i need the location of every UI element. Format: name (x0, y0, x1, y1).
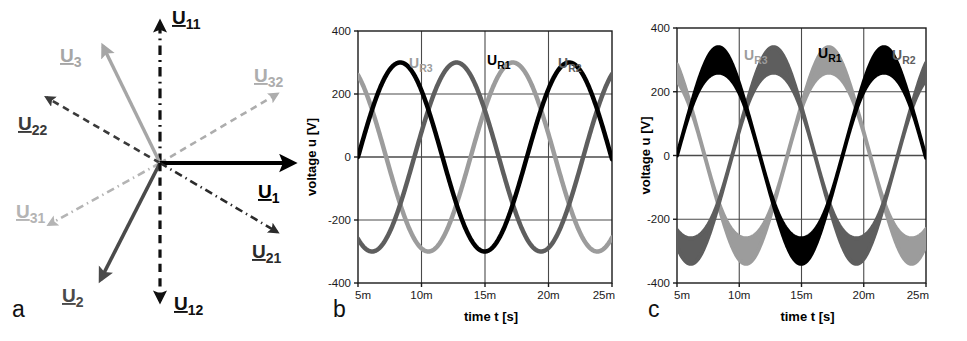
x-axis-title: time t [s] (780, 309, 834, 324)
x-tick-label: 5m (674, 289, 690, 301)
y-tick-label: -400 (328, 277, 351, 289)
phasor-label-u2: U2 (62, 285, 84, 310)
svg-text:U12: U12 (174, 293, 204, 318)
x-tick-label: 10m (410, 289, 432, 301)
figure-root: U11U3U32U22U1U31U21U2U12 a -400-20002004… (0, 0, 967, 341)
svg-text:U1: U1 (258, 181, 280, 206)
x-tick-label: 5m (355, 289, 371, 301)
phasor-vector-u32 (160, 94, 277, 163)
panel-letter-c: c (648, 296, 660, 323)
curve-annotation-ur2: UR2 (558, 55, 582, 74)
y-tick-label: 0 (345, 151, 351, 163)
phasor-label-u1: U1 (258, 181, 280, 206)
x-tick-label: 15m (474, 289, 496, 301)
svg-text:U2: U2 (62, 285, 84, 310)
y-tick-label: 200 (651, 86, 670, 98)
svg-text:U21: U21 (252, 241, 282, 266)
chart-c-svg: -400-20002004005m10m15m20m25mtime t [s]v… (640, 0, 967, 341)
chart-b-svg: -400-20002004005m10m15m20m25mtime t [s]v… (330, 0, 640, 341)
x-tick-label: 20m (853, 289, 875, 301)
y-tick-label: 0 (664, 150, 670, 162)
phasor-label-u31: U31 (16, 201, 46, 226)
phasor-label-u3: U3 (60, 45, 82, 70)
curve-annotation-ur3: UR3 (744, 47, 768, 66)
x-tick-label: 25m (907, 289, 929, 301)
phasor-vector-u3 (103, 46, 160, 163)
svg-text:U31: U31 (16, 201, 46, 226)
phasor-vector-u2 (101, 163, 160, 280)
phasor-diagram-svg: U11U3U32U22U1U31U21U2U12 (0, 0, 330, 341)
x-tick-label: 10m (728, 289, 750, 301)
svg-text:U22: U22 (18, 113, 48, 138)
y-tick-label: 400 (332, 25, 351, 37)
phasor-label-u11: U11 (172, 7, 201, 32)
y-tick-label: -400 (647, 277, 670, 289)
phasor-label-u32: U32 (254, 65, 284, 90)
panel-letter-a: a (12, 296, 25, 323)
curve-annotation-ur1: UR1 (487, 52, 511, 71)
phasor-label-u22: U22 (18, 113, 48, 138)
y-tick-label: -200 (328, 214, 351, 226)
phasor-label-u21: U21 (252, 241, 282, 266)
panel-b-chart: -400-20002004005m10m15m20m25mtime t [s]v… (330, 0, 640, 341)
y-tick-label: 200 (332, 88, 351, 100)
x-tick-label: 25m (593, 289, 615, 301)
panel-c-chart: -400-20002004005m10m15m20m25mtime t [s]v… (640, 0, 967, 341)
y-axis-title: voltage u [V] (638, 116, 653, 194)
panel-a-phasor-diagram: U11U3U32U22U1U31U21U2U12 a (0, 0, 330, 341)
phasor-label-u12: U12 (174, 293, 204, 318)
x-axis-title: time t [s] (464, 309, 518, 324)
y-axis-title: voltage u [V] (304, 118, 319, 196)
y-tick-label: 400 (651, 22, 670, 34)
panel-letter-b: b (333, 296, 346, 323)
y-tick-label: -200 (647, 213, 670, 225)
svg-text:U3: U3 (60, 45, 82, 70)
svg-text:U11: U11 (172, 7, 201, 32)
svg-text:U32: U32 (254, 65, 284, 90)
x-tick-label: 15m (790, 289, 812, 301)
x-tick-label: 20m (537, 289, 559, 301)
